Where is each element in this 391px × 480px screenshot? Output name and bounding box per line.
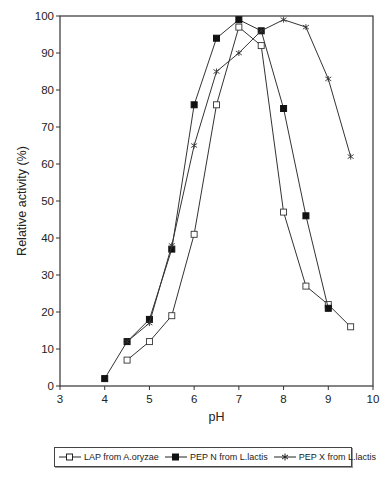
filled-square-marker — [191, 102, 197, 108]
y-tick-label: 50 — [41, 195, 54, 207]
y-axis-label: Relative activity (%) — [15, 146, 29, 256]
legend-item-lap: LAP from A.oryzae — [59, 452, 159, 462]
open-square-marker — [146, 339, 152, 345]
y-tick-label: 80 — [41, 84, 54, 96]
legend: LAP from A.oryzae PEP N from L.lactis PE… — [54, 447, 352, 467]
legend-label: PEP X from L.lactis — [299, 452, 376, 462]
y-tick-label: 70 — [41, 121, 54, 133]
open-square-marker — [258, 43, 264, 49]
legend-item-pepx: PEP X from L.lactis — [274, 452, 376, 462]
star-marker — [191, 143, 197, 149]
x-tick-label: 3 — [57, 393, 63, 405]
star-marker — [303, 24, 309, 30]
y-tick-label: 40 — [41, 232, 54, 244]
open-square-marker — [303, 283, 309, 289]
open-square-marker — [348, 324, 354, 330]
filled-square-marker — [102, 376, 108, 382]
y-tick-label: 90 — [41, 47, 54, 59]
x-tick-label: 6 — [191, 393, 197, 405]
legend-label: PEP N from L.lactis — [190, 452, 268, 462]
open-square-marker — [169, 313, 175, 319]
x-tick-label: 7 — [236, 393, 242, 405]
filled-square-marker — [236, 17, 242, 23]
series-line — [127, 20, 351, 342]
x-tick-label: 10 — [367, 393, 380, 405]
x-tick-label: 5 — [146, 393, 152, 405]
filled-square-marker — [325, 305, 331, 311]
open-square-marker-icon — [59, 452, 81, 462]
filled-square-marker — [214, 35, 220, 41]
series-line — [127, 27, 351, 360]
star-marker — [325, 76, 331, 82]
filled-square-marker — [303, 213, 309, 219]
open-square-marker — [214, 102, 220, 108]
chart-canvas: 0102030405060708090100345678910pHRelativ… — [0, 0, 391, 440]
open-square-marker — [236, 24, 242, 30]
y-tick-label: 30 — [41, 269, 54, 281]
filled-square-marker — [281, 106, 287, 112]
y-tick-label: 60 — [41, 158, 54, 170]
open-square-marker — [124, 357, 130, 363]
star-marker-icon — [274, 452, 296, 462]
x-tick-label: 8 — [280, 393, 286, 405]
filled-square-marker-icon — [165, 452, 187, 462]
x-tick-label: 4 — [102, 393, 109, 405]
y-tick-label: 0 — [48, 380, 54, 392]
y-tick-label: 20 — [41, 306, 54, 318]
open-square-marker — [191, 231, 197, 237]
x-tick-label: 9 — [325, 393, 331, 405]
open-square-marker — [281, 209, 287, 215]
star-marker — [348, 154, 354, 160]
y-tick-label: 100 — [35, 10, 54, 22]
legend-label: LAP from A.oryzae — [84, 452, 159, 462]
x-axis-label: pH — [209, 410, 225, 424]
star-marker — [281, 17, 287, 23]
legend-item-pepn: PEP N from L.lactis — [165, 452, 268, 462]
y-tick-label: 10 — [41, 343, 54, 355]
